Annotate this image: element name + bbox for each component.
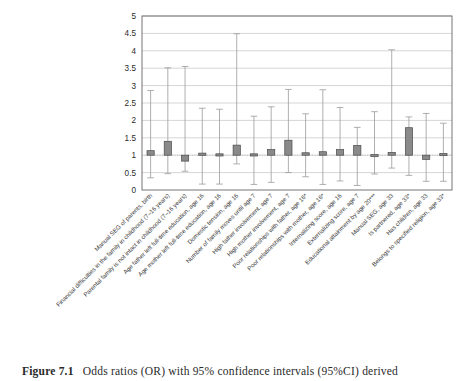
odds-ratio-bar (302, 153, 309, 155)
odds-ratio-bar (199, 153, 206, 155)
odds-ratio-bar (233, 145, 240, 155)
odds-ratio-chart: 00.511.522.533.544.55 Manual SEG of pare… (0, 0, 462, 345)
bars-and-whiskers-group (147, 34, 447, 186)
y-axis-tick-labels-group: 00.511.522.533.544.55 (125, 12, 137, 195)
figure-caption-body: Odds ratios (OR) with 95% confidence int… (83, 365, 398, 377)
data-point-group (371, 112, 378, 174)
data-point-group (181, 66, 188, 171)
y-axis-tick-label: 0.5 (125, 169, 137, 178)
y-axis-tick-label: 5 (131, 12, 136, 21)
figure-caption: Figure 7.1 Odds ratios (OR) with 95% con… (0, 362, 462, 381)
odds-ratio-bar (181, 155, 188, 161)
odds-ratio-bar (354, 145, 361, 155)
odds-ratio-bar (371, 155, 378, 157)
odds-ratio-bar (388, 152, 395, 155)
odds-ratio-bar (216, 154, 223, 156)
data-point-group (147, 90, 154, 177)
odds-ratio-bar (147, 151, 154, 156)
y-axis-tick-label: 2 (131, 116, 136, 125)
y-axis-tick-label: 1.5 (125, 134, 137, 143)
data-point-group (336, 108, 343, 181)
odds-ratio-bar (268, 150, 275, 156)
figure-caption-text: Figure 7.1 Odds ratios (OR) with 95% con… (22, 365, 398, 377)
data-point-group (268, 107, 275, 183)
odds-ratio-bar (250, 154, 257, 156)
y-axis-tick-label: 1 (131, 151, 136, 160)
data-point-group (354, 127, 361, 185)
chart-plot-area: 00.511.522.533.544.55 Manual SEG of pare… (0, 0, 462, 200)
y-axis-tick-label: 3.5 (125, 64, 137, 73)
odds-ratio-bar (285, 140, 292, 155)
y-axis-tick-label: 3 (131, 82, 136, 91)
odds-ratio-bar (440, 153, 447, 155)
figure-container: 00.511.522.533.544.55 Manual SEG of pare… (0, 0, 462, 381)
y-axis-tick-label: 4.5 (125, 29, 137, 38)
y-axis-tick-label: 4 (131, 47, 136, 56)
data-point-group (233, 34, 240, 164)
figure-caption-label: Figure 7.1 (22, 365, 74, 377)
data-point-group (319, 90, 326, 185)
data-point-group (164, 68, 171, 174)
y-axis-tick-label: 0 (131, 186, 136, 195)
x-axis-category-labels-group: Manual SEG of parents, birthFinancial di… (55, 191, 447, 307)
data-point-group (405, 117, 412, 175)
data-point-group (285, 89, 292, 172)
odds-ratio-bar (405, 128, 412, 155)
odds-ratio-bar (336, 150, 343, 156)
data-point-group (250, 116, 257, 184)
odds-ratio-bar (164, 141, 171, 155)
odds-ratio-bar (319, 152, 326, 155)
y-axis-tick-label: 2.5 (125, 99, 137, 108)
data-point-group (302, 114, 309, 177)
data-point-group (388, 50, 395, 168)
data-point-group (423, 113, 430, 181)
x-axis-category-label: Financial difficulties in the family in … (55, 192, 171, 308)
odds-ratio-bar (423, 155, 430, 159)
